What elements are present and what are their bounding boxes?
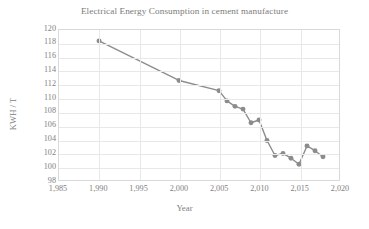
x-axis-tick-label: 2,010 [239,184,279,193]
y-axis-tick-label: 110 [30,93,56,102]
x-axis-tick-label: 1,985 [38,184,78,193]
y-axis-tick-label: 108 [30,106,56,115]
grid-line-horizontal [59,85,339,86]
x-axis-tick-label: 2,005 [199,184,239,193]
grid-line-vertical [99,30,100,180]
grid-line-horizontal [59,154,339,155]
series-line [99,41,323,164]
grid-line-horizontal [59,113,339,114]
data-point-marker[interactable]: 2009: 106.4 [249,120,254,125]
y-axis-tick-label: 114 [30,65,56,74]
y-axis-tick-labels: 98100102104106108110112114116118120 [28,29,56,181]
chart-container: Electrical Energy Consumption in cement … [0,0,369,229]
grid-line-horizontal [59,99,339,100]
data-series-layer: 1990: 118.42000: 112.62005: 111.12006: 1… [59,30,339,180]
x-axis-title: Year [0,203,369,213]
y-axis-tick-label: 118 [30,37,56,46]
x-axis-tick-label: 2,015 [280,184,320,193]
y-axis-tick-label: 102 [30,148,56,157]
grid-line-horizontal [59,44,339,45]
x-axis-tick-label: 2,020 [320,184,360,193]
y-axis-tick-label: 100 [30,162,56,171]
data-point-marker[interactable]: 2008: 108.4 [241,107,246,112]
x-axis-tick-label: 1,990 [78,184,118,193]
data-point-marker[interactable]: 2007: 108.8 [233,104,238,109]
y-axis-tick-label: 120 [30,24,56,33]
x-axis-tick-label: 2,000 [159,184,199,193]
y-axis-title: KWH / T [8,0,18,74]
grid-line-vertical [301,30,302,180]
y-axis-tick-label: 112 [30,79,56,88]
grid-line-horizontal [59,71,339,72]
y-axis-tick-label: 116 [30,51,56,60]
y-axis-tick-label: 104 [30,134,56,143]
x-axis-tick-label: 1,995 [119,184,159,193]
x-axis-tick-labels: 1,9851,9901,9952,0002,0052,0102,0152,020 [58,184,340,198]
grid-line-horizontal [59,58,339,59]
grid-line-horizontal [59,141,339,142]
data-point-marker[interactable]: 2017: 102.3 [313,148,318,153]
grid-line-horizontal [59,127,339,128]
data-point-marker[interactable]: 2014: 101.2 [289,156,294,161]
y-axis-title-label: KWH / T [8,74,18,154]
grid-line-horizontal [59,168,339,169]
chart-title: Electrical Energy Consumption in cement … [0,6,369,16]
y-axis-tick-label: 106 [30,120,56,129]
data-point-marker[interactable]: 2016: 103 [305,143,310,148]
grid-line-vertical [220,30,221,180]
grid-line-vertical [260,30,261,180]
grid-line-vertical [180,30,181,180]
plot-area: 1990: 118.42000: 112.62005: 111.12006: 1… [58,29,340,181]
grid-line-vertical [140,30,141,180]
